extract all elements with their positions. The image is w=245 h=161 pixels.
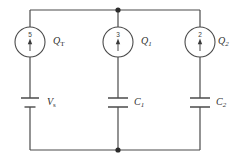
capacitor-c2-symbol (190, 98, 210, 107)
voltage-source-symbol (21, 98, 39, 107)
label-q1-sub: 1 (148, 40, 152, 48)
label-vs: Vs (47, 97, 56, 107)
label-vs-sub: s (53, 101, 56, 109)
meter-q2: 2 (185, 27, 215, 57)
top-junction-node (115, 7, 120, 12)
meter-q2-reading: 2 (198, 31, 202, 38)
circuit-schematic-canvas: 5 3 2 (0, 0, 245, 161)
label-qt: QT (53, 36, 65, 46)
label-q2-sub: 2 (225, 40, 229, 48)
label-c1-main: C (134, 96, 141, 107)
label-q2: Q2 (218, 36, 229, 46)
label-qt-sub: T (60, 40, 64, 48)
meter-q1-reading: 3 (116, 31, 120, 38)
label-c2-sub: 2 (223, 101, 227, 109)
label-c2-main: C (216, 96, 223, 107)
circuit-diagram: 5 3 2 (0, 0, 245, 161)
bottom-junction-node (115, 147, 120, 152)
meter-qt-reading: 5 (28, 31, 32, 38)
label-c1-sub: 1 (141, 101, 145, 109)
capacitor-c1-symbol (108, 98, 128, 107)
meter-q1: 3 (103, 27, 133, 57)
label-q1: Q1 (141, 36, 152, 46)
label-c2: C2 (216, 97, 226, 107)
meter-qt: 5 (15, 27, 45, 57)
label-c1: C1 (134, 97, 144, 107)
